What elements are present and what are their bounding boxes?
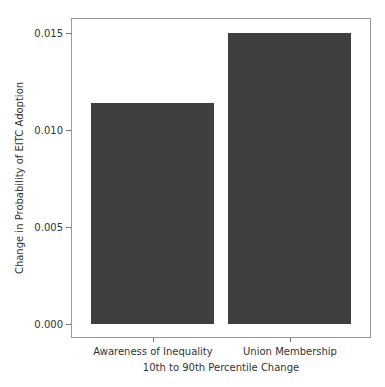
y-tick-label: 0.005 — [34, 222, 63, 233]
y-tick-mark — [66, 130, 71, 131]
x-axis-title: 10th to 90th Percentile Change — [143, 362, 299, 373]
y-axis-title: Change in Probability of EITC Adoption — [14, 82, 25, 274]
y-tick-label: 0.015 — [34, 28, 63, 39]
x-tick-mark — [290, 338, 291, 342]
x-tick-label: Union Membership — [243, 346, 337, 357]
y-tick-mark — [66, 33, 71, 34]
y-tick-mark — [66, 324, 71, 325]
y-tick-mark — [66, 227, 71, 228]
bar-union-membership — [228, 33, 351, 324]
x-tick-label: Awareness of Inequality — [93, 346, 212, 357]
y-tick-label: 0.010 — [34, 125, 63, 136]
x-tick-mark — [153, 338, 154, 342]
y-tick-label: 0.000 — [34, 319, 63, 330]
bar-awareness-of-inequality — [91, 103, 214, 324]
